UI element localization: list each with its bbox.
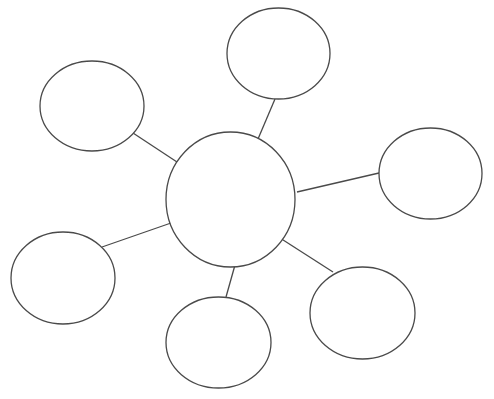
bubble-bottom-right: [310, 267, 415, 359]
connector-line-right: [297, 173, 379, 192]
ellipse-shape: [379, 128, 482, 219]
connector-line-bottom: [226, 265, 235, 297]
ellipse-shape: [11, 232, 115, 324]
ellipse-shape: [166, 132, 295, 267]
bubble-top-left: [40, 61, 144, 151]
bubble-right: [379, 128, 482, 219]
ellipse-shape: [40, 61, 144, 151]
ellipse-shape: [310, 267, 415, 359]
bubble-map-diagram: [0, 0, 494, 399]
bubble-bottom: [166, 297, 271, 388]
ellipse-shape: [166, 297, 271, 388]
center-bubble: [166, 132, 295, 267]
ellipse-shape: [227, 8, 330, 99]
bubble-nodes: [11, 8, 482, 388]
connector-line-bottom-right: [280, 238, 333, 272]
connector-line-top: [258, 99, 275, 139]
connector-line-top-left: [133, 133, 177, 162]
bubble-top: [227, 8, 330, 99]
bubble-left: [11, 232, 115, 324]
connector-line-left: [102, 223, 171, 247]
